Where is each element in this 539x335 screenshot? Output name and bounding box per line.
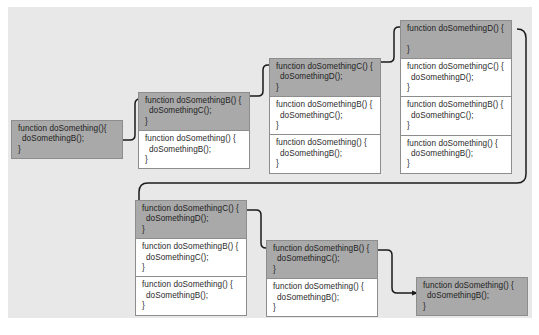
frame-close: } [423,302,527,312]
frame-call: doSomethingD(); [276,72,380,82]
frame-doSomething[interactable]: function doSomething() { doSomethingB();… [417,278,527,315]
frame-signature: function doSomething() { [407,139,511,149]
frame-close: } [142,301,246,311]
call-stack-7[interactable]: function doSomething() { doSomethingB();… [416,277,528,316]
frame-close: } [142,263,246,273]
call-stack-6[interactable]: function doSomethingB() { doSomethingC()… [266,240,378,317]
frame-call: doSomethingB(); [142,291,246,301]
frame-close: } [276,159,380,169]
frame-close: } [18,145,122,155]
frame-signature: function doSomethingB() { [145,96,249,106]
frame-signature: function doSomething() { [142,280,246,290]
call-stack-3[interactable]: function doSomethingC() { doSomethingD()… [269,58,381,174]
frame-signature: function doSomething() { [276,138,380,148]
frame-signature: function doSomething() { [145,134,249,144]
frame-signature: function doSomething() { [423,281,527,291]
frame-doSomething[interactable]: function doSomething(){ doSomethingB(); … [12,121,122,158]
frame-doSomethingD[interactable]: function doSomethingD() { } [401,21,511,59]
frame-doSomething[interactable]: function doSomething() { doSomethingB();… [401,136,511,173]
frame-close: } [407,45,511,55]
call-stack-1[interactable]: function doSomething(){ doSomethingB(); … [11,120,123,159]
frame-close: } [142,225,246,235]
frame-doSomethingC[interactable]: function doSomethingC() { doSomethingD()… [136,201,246,239]
frame-signature: function doSomething(){ [18,124,122,134]
call-stack-5[interactable]: function doSomethingC() { doSomethingD()… [135,200,247,316]
frame-call: doSomethingD(); [142,214,246,224]
frame-signature: function doSomethingD() { [407,24,511,34]
frame-call [407,34,511,44]
frame-doSomethingC[interactable]: function doSomethingC() { doSomethingD()… [270,59,380,97]
frame-signature: function doSomethingB() { [142,242,246,252]
call-stack-2[interactable]: function doSomethingB() { doSomethingC()… [138,92,250,169]
frame-call: doSomethingC(); [276,111,380,121]
frame-call: doSomethingD(); [407,73,511,83]
frame-doSomething[interactable]: function doSomething() { doSomethingB();… [139,131,249,168]
frame-signature: function doSomething() { [273,282,377,292]
frame-call: doSomethingC(); [273,254,377,264]
call-stack-diagram: function doSomething(){ doSomethingB(); … [0,0,539,335]
frame-doSomethingB[interactable]: function doSomethingB() { doSomethingC()… [267,241,377,279]
frame-doSomethingB[interactable]: function doSomethingB() { doSomethingC()… [139,93,249,131]
frame-call: doSomethingC(); [142,253,246,263]
call-stack-4[interactable]: function doSomethingD() { } function doS… [400,20,512,174]
frame-doSomethingB[interactable]: function doSomethingB() { doSomethingC()… [136,239,246,277]
frame-doSomething[interactable]: function doSomething() { doSomethingB();… [136,277,246,314]
frame-signature: function doSomethingB() { [276,100,380,110]
frame-call: doSomethingB(); [145,145,249,155]
frame-call: doSomethingC(); [407,111,511,121]
frame-doSomethingC[interactable]: function doSomethingC() { doSomethingD()… [401,59,511,97]
frame-close: } [276,121,380,131]
frame-doSomething[interactable]: function doSomething() { doSomethingB();… [267,279,377,316]
frame-close: } [145,155,249,165]
frame-close: } [276,83,380,93]
frame-signature: function doSomethingC() { [142,204,246,214]
frame-close: } [407,121,511,131]
frame-close: } [273,265,377,275]
frame-signature: function doSomethingB() { [273,244,377,254]
frame-signature: function doSomethingB() { [407,100,511,110]
frame-doSomething[interactable]: function doSomething() { doSomethingB();… [270,135,380,172]
frame-signature: function doSomethingC() { [276,62,380,72]
frame-close: } [407,83,511,93]
frame-close: } [145,117,249,127]
frame-call: doSomethingB(); [407,149,511,159]
frame-signature: function doSomethingC() { [407,62,511,72]
frame-call: doSomethingB(); [423,291,527,301]
frame-doSomethingB[interactable]: function doSomethingB() { doSomethingC()… [401,97,511,135]
frame-call: doSomethingC(); [145,106,249,116]
frame-call: doSomethingB(); [276,149,380,159]
frame-close: } [407,159,511,169]
frame-call: doSomethingB(); [18,134,122,144]
frame-call: doSomethingB(); [273,293,377,303]
frame-doSomethingB[interactable]: function doSomethingB() { doSomethingC()… [270,97,380,135]
frame-close: } [273,303,377,313]
